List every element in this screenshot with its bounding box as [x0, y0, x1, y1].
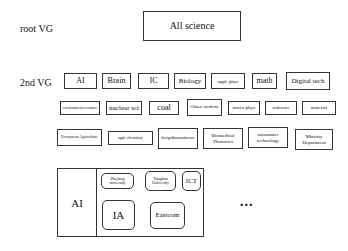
second-vg-label: 2nd VG: [20, 77, 52, 88]
member-eastcom: Eastcom: [150, 202, 185, 229]
vg-nanomater-technology: nanomater technology: [248, 127, 288, 148]
member-zhejiang-university: Zhejiang university: [101, 173, 134, 189]
vg-biology: Biology: [174, 73, 206, 89]
more-ellipsis: ...: [240, 194, 254, 210]
vg-micro-phys: micro phys: [228, 101, 260, 115]
vg-brain: Brain: [102, 73, 131, 89]
vg-material: material: [302, 101, 336, 115]
vg-digital-tech: Digital tech: [286, 72, 330, 90]
vg-ecosystem-agriculture: Ecosystem Agriculture: [57, 129, 102, 146]
member-ict: ICT: [182, 171, 201, 191]
vg-nuclear-sci: nuclear sci: [106, 101, 142, 115]
ai-group-title: AI: [58, 169, 97, 236]
member-ia: IA: [102, 200, 135, 230]
all-science-box: All science: [143, 11, 241, 41]
vg-chinese-medicine: Chinese medicine: [187, 99, 222, 116]
root-vg-label: root VG: [20, 23, 53, 34]
vg-coal: coal: [149, 101, 179, 115]
vg-design-manufacture: design&manufacture: [158, 128, 198, 149]
vg-ministry-department: Ministry Department: [295, 129, 333, 150]
vg-appl-chemistry: appl. chemistry: [108, 131, 153, 145]
vg-math: math: [252, 73, 277, 89]
vg-ai: AI: [64, 73, 97, 89]
member-tsinghua-university: Tsinghua University: [145, 171, 176, 191]
vg-ic: IC: [138, 73, 169, 89]
vg-environment-resource: environment resource: [60, 101, 100, 115]
vg-software: software: [265, 101, 297, 115]
vg-appl-phys: appl. phys: [211, 73, 245, 89]
vg-biomedical-photonics: Biomedical Photonics: [203, 128, 243, 149]
